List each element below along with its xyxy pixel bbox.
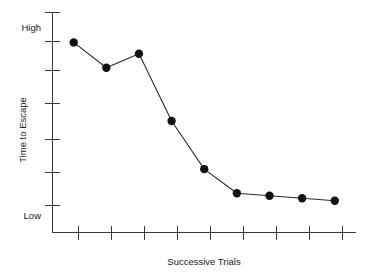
data-point-group	[70, 38, 339, 205]
data-point	[265, 192, 273, 200]
y-axis-low-label: Low	[24, 210, 42, 221]
data-point	[70, 38, 78, 46]
data-point	[200, 165, 208, 173]
x-axis-title: Successive Trials	[167, 256, 241, 267]
data-point	[233, 189, 241, 197]
data-point	[331, 197, 339, 205]
y-axis-title: Time to Escape	[17, 97, 28, 163]
y-axis-high-label: High	[21, 22, 41, 33]
data-point	[167, 117, 175, 125]
data-point	[102, 64, 110, 72]
data-point	[298, 194, 306, 202]
chart-figure: High Low Time to Escape Successive Trial…	[0, 0, 375, 278]
line-chart-canvas: High Low Time to Escape Successive Trial…	[0, 0, 375, 278]
data-series-line	[74, 42, 335, 200]
data-point	[135, 50, 143, 58]
